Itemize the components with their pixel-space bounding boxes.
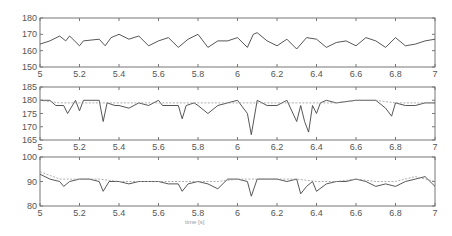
series-measured [40, 100, 435, 134]
x-tick-label: 7 [432, 69, 437, 79]
x-tick-label: 6.6 [350, 208, 363, 218]
y-tick-label: 100 [22, 152, 37, 162]
x-tick-label: 5.8 [192, 69, 205, 79]
subplot-1: 55.25.45.65.866.26.46.66.87150160170180 [22, 13, 438, 79]
x-axis-label: time [s] [185, 219, 204, 225]
x-tick-label: 5.2 [73, 69, 86, 79]
series-estimated [40, 172, 435, 182]
axes-box [40, 87, 435, 140]
y-tick-label: 170 [22, 29, 37, 39]
x-tick-label: 6.8 [389, 208, 402, 218]
x-tick-label: 6.2 [271, 142, 284, 152]
y-tick-label: 180 [22, 13, 37, 23]
x-tick-label: 5.6 [152, 208, 165, 218]
x-tick-label: 7 [432, 208, 437, 218]
x-tick-label: 6.8 [389, 142, 402, 152]
x-tick-label: 5.4 [113, 142, 126, 152]
y-tick-label: 150 [22, 62, 37, 72]
subplot-2: 55.25.45.65.866.26.46.66.871651701751801… [22, 82, 438, 152]
x-tick-label: 6 [235, 208, 240, 218]
x-tick-label: 6.2 [271, 208, 284, 218]
x-tick-label: 5 [37, 142, 42, 152]
chart-figure: 55.25.45.65.866.26.46.66.871501601701805… [0, 0, 452, 236]
y-tick-label: 165 [22, 135, 37, 145]
y-tick-label: 90 [27, 177, 37, 187]
x-tick-label: 6.4 [310, 69, 323, 79]
y-tick-label: 175 [22, 109, 37, 119]
x-tick-label: 5.8 [192, 142, 205, 152]
y-tick-label: 180 [22, 95, 37, 105]
x-tick-label: 6 [235, 69, 240, 79]
x-tick-label: 5.6 [152, 69, 165, 79]
x-tick-label: 6.2 [271, 69, 284, 79]
x-tick-label: 6.6 [350, 142, 363, 152]
x-tick-label: 7 [432, 142, 437, 152]
series-signal [40, 33, 435, 49]
x-tick-label: 5 [37, 69, 42, 79]
y-tick-label: 160 [22, 46, 37, 56]
x-tick-label: 5.8 [192, 208, 205, 218]
x-tick-label: 6.4 [310, 142, 323, 152]
x-tick-label: 5.4 [113, 69, 126, 79]
x-tick-label: 5.2 [73, 142, 86, 152]
axes-box [40, 18, 435, 67]
x-tick-label: 6.6 [350, 69, 363, 79]
x-tick-label: 6.8 [389, 69, 402, 79]
series-measured [40, 174, 435, 196]
x-tick-label: 6 [235, 142, 240, 152]
y-tick-label: 80 [27, 201, 37, 211]
x-tick-label: 5.6 [152, 142, 165, 152]
x-tick-label: 5.4 [113, 208, 126, 218]
y-tick-label: 185 [22, 82, 37, 92]
y-tick-label: 170 [22, 122, 37, 132]
x-tick-label: 6.4 [310, 208, 323, 218]
x-tick-label: 5 [37, 208, 42, 218]
x-tick-label: 5.2 [73, 208, 86, 218]
subplot-3: 55.25.45.65.866.26.46.66.878090100 [22, 152, 438, 218]
